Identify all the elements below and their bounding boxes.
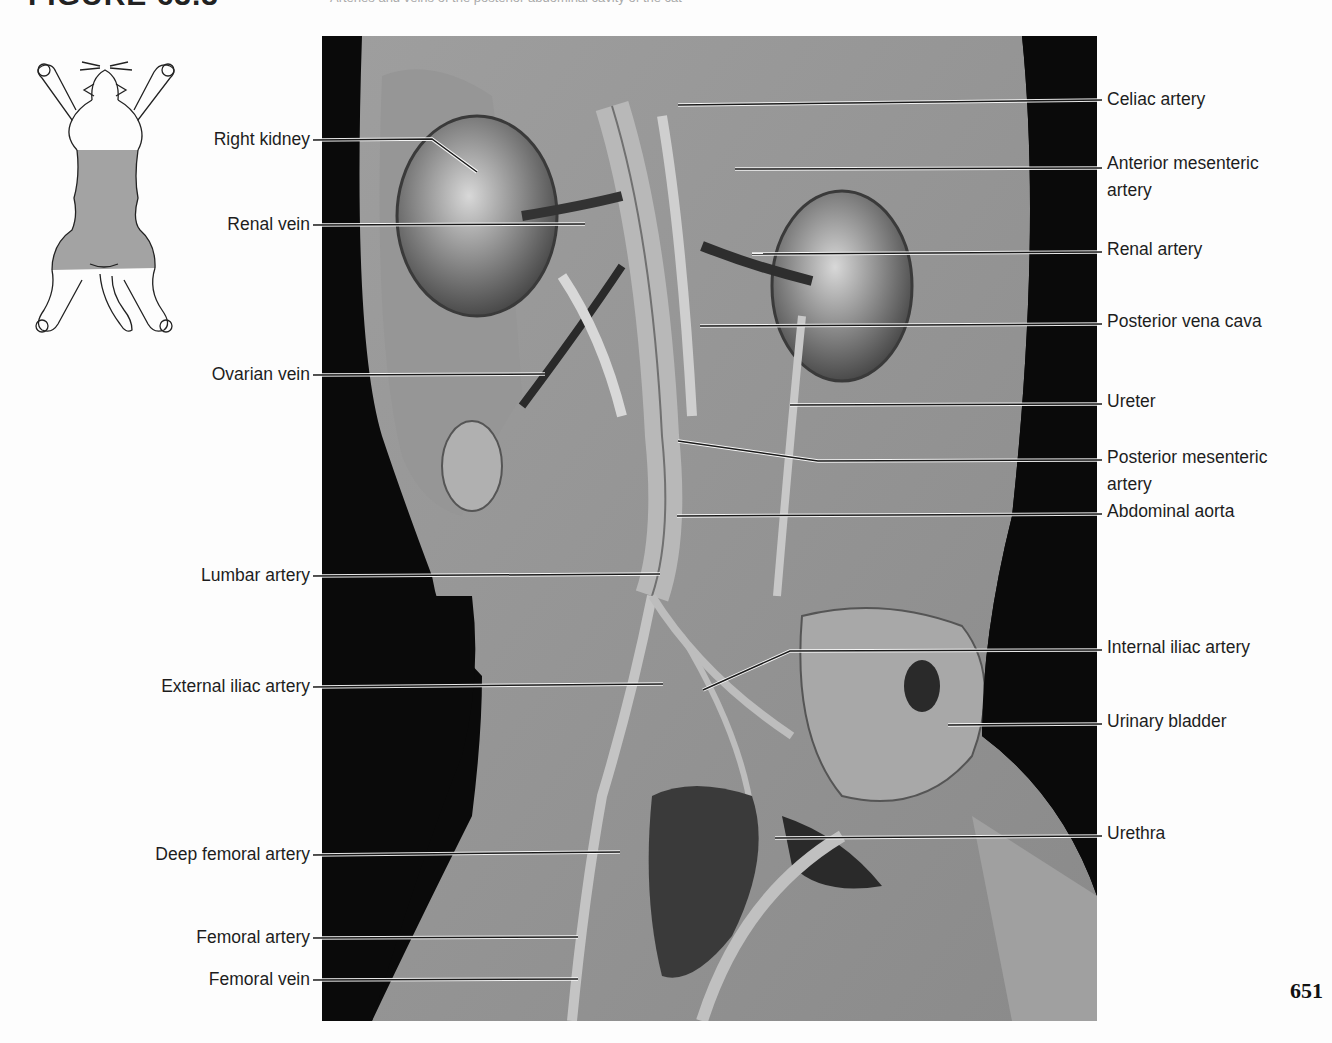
label-posterior-mesenteric-artery: Posterior mesenteric artery: [1107, 444, 1267, 498]
label-renal-vein: Renal vein: [227, 211, 310, 238]
label-ureter: Ureter: [1107, 388, 1156, 415]
label-urethra: Urethra: [1107, 820, 1165, 847]
label-line-1: Anterior mesenteric: [1107, 150, 1259, 177]
label-line-1: Posterior mesenteric: [1107, 444, 1267, 471]
label-internal-iliac-artery: Internal iliac artery: [1107, 634, 1250, 661]
label-urinary-bladder: Urinary bladder: [1107, 708, 1227, 735]
label-femoral-artery: Femoral artery: [196, 924, 310, 951]
label-femoral-vein: Femoral vein: [209, 966, 310, 993]
label-line-2: artery: [1107, 177, 1259, 204]
label-deep-femoral-artery: Deep femoral artery: [155, 841, 310, 868]
label-line-2: artery: [1107, 471, 1267, 498]
figure-title: FIGURE 63.3: [28, 0, 219, 10]
figure-caption: Arteries and veins of the posterior abdo…: [330, 0, 682, 5]
label-lumbar-artery: Lumbar artery: [201, 562, 310, 589]
label-anterior-mesenteric-artery: Anterior mesenteric artery: [1107, 150, 1259, 204]
dissection-photo: [322, 36, 1097, 1021]
figure-header: FIGURE 63.3 Arteries and veins of the po…: [0, 0, 700, 10]
label-posterior-vena-cava: Posterior vena cava: [1107, 308, 1262, 335]
dissection-illustration: [322, 36, 1097, 1021]
label-abdominal-aorta: Abdominal aorta: [1107, 498, 1234, 525]
label-celiac-artery: Celiac artery: [1107, 86, 1205, 113]
cat-ventral-view-icon: [20, 48, 190, 348]
label-right-kidney: Right kidney: [214, 126, 310, 153]
label-ovarian-vein: Ovarian vein: [212, 361, 310, 388]
page-number: 651: [1290, 978, 1323, 1004]
label-external-iliac-artery: External iliac artery: [161, 673, 310, 700]
label-renal-artery: Renal artery: [1107, 236, 1202, 263]
